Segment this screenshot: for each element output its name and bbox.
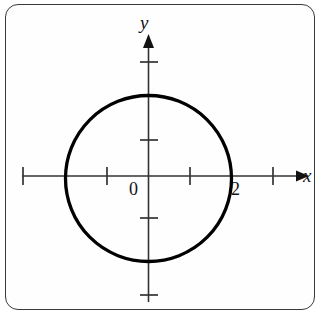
origin-label: 0: [129, 180, 138, 198]
x-intercept-label: 2: [231, 180, 240, 198]
y-axis-label: y: [140, 13, 148, 32]
x-axis-label: x: [303, 166, 311, 185]
y-axis-arrowhead: [143, 34, 154, 48]
coordinate-plane: [0, 0, 325, 320]
figure-container: y x 0 2: [0, 0, 325, 320]
